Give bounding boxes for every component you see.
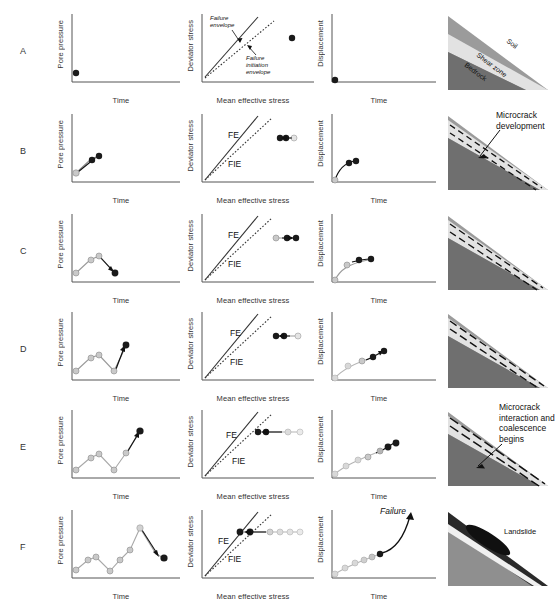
slope-diagram: Landslide: [444, 508, 552, 594]
failure-initiation-envelope-label: Failure initiation envelope: [246, 55, 280, 76]
fie-label: FIE: [228, 554, 241, 565]
fie-label: FIE: [228, 259, 241, 270]
plot-area: [58, 212, 184, 294]
fe-label: FE: [226, 430, 237, 441]
axis-label-x: Time: [58, 196, 184, 205]
axis-label-x: Time: [318, 196, 440, 205]
plot-area: [58, 408, 184, 490]
fie-label: FIE: [230, 357, 243, 368]
axis-label-y: Displacement: [316, 220, 325, 267]
plot-area: [188, 508, 318, 590]
panel-displacement-c: Displacement Time: [318, 212, 440, 304]
plot-area: [188, 112, 318, 194]
landslide-label: Landslide: [504, 527, 536, 536]
axis-label-y: Pore pressure: [56, 416, 65, 464]
panel-pore-pressure-f: Pore pressure Time: [58, 508, 184, 600]
panel-slope-cross-section-d: [444, 310, 552, 402]
axis-label-y: Pore pressure: [56, 220, 65, 268]
panel-stress-path-f: Deviator stress Mean effective stress FE…: [188, 508, 318, 600]
axis-label-x: Mean effective stress: [188, 492, 318, 501]
plot-area: [188, 310, 318, 392]
panel-stress-path-b: Deviator stress Mean effective stress FE…: [188, 112, 318, 204]
plot-area: [318, 12, 440, 94]
panel-pore-pressure-d: Pore pressure Time: [58, 310, 184, 402]
row-label-d: D: [20, 344, 27, 354]
plot-area: [318, 508, 440, 590]
plot-area: [318, 212, 440, 294]
plot-area: [58, 12, 184, 94]
axis-label-x: Time: [318, 96, 440, 105]
axis-label-x: Mean effective stress: [188, 96, 318, 105]
axis-label-y: Pore pressure: [56, 516, 65, 564]
panel-slope-cross-section-e: Microcrack interaction and coalescence b…: [444, 408, 552, 500]
row-label-f: F: [20, 542, 26, 552]
slope-diagram: Soil Shear zone Bedrock: [444, 12, 552, 98]
figure-row-a: A Pore pressure Time Deviator stress Mea…: [0, 8, 554, 104]
fie-label: FIE: [228, 159, 241, 170]
data-point: [289, 35, 295, 41]
axis-label-x: Time: [58, 96, 184, 105]
axis-label-y: Deviator stress: [186, 20, 195, 72]
plot-area: [58, 508, 184, 590]
panel-displacement-d: Displacement Time: [318, 310, 440, 402]
axis-label-y: Pore pressure: [56, 120, 65, 168]
axis-label-y: Displacement: [316, 516, 325, 563]
axis-label-x: Time: [318, 492, 440, 501]
plot-area: [318, 112, 440, 194]
axis-label-x: Time: [58, 592, 184, 601]
axis-label-y: Deviator stress: [186, 416, 195, 468]
axis-label-y: Displacement: [316, 318, 325, 365]
plot-area: [188, 12, 318, 94]
axis-label-x: Mean effective stress: [188, 394, 318, 403]
row-label-e: E: [20, 442, 26, 452]
slope-diagram: [444, 310, 552, 396]
axis-label-y: Deviator stress: [186, 220, 195, 272]
plot-area: [318, 310, 440, 392]
panel-slope-cross-section-c: [444, 212, 552, 304]
axis-label-y: Pore pressure: [56, 20, 65, 68]
panel-slope-cross-section-a: Soil Shear zone Bedrock: [444, 12, 552, 104]
axis-label-x: Time: [58, 492, 184, 501]
panel-pore-pressure-e: Pore pressure Time: [58, 408, 184, 500]
annotation-leader: [444, 112, 552, 198]
axis-label-x: Time: [318, 394, 440, 403]
axis-label-y: Deviator stress: [186, 516, 195, 568]
plot-area: [318, 408, 440, 490]
axis-label-x: Time: [58, 296, 184, 305]
axis-label-y: Deviator stress: [186, 318, 195, 370]
fe-label: FE: [230, 328, 241, 339]
row-label-a: A: [20, 46, 26, 56]
axis-label-x: Mean effective stress: [188, 592, 318, 601]
panel-stress-path-a: Deviator stress Mean effective stress Fa…: [188, 12, 318, 104]
plot-area: [58, 310, 184, 392]
plot-area: [58, 112, 184, 194]
failure-envelope-label: Failure envelope: [210, 15, 244, 29]
panel-pore-pressure-a: Pore pressure Time: [58, 12, 184, 104]
axis-label-x: Time: [318, 296, 440, 305]
annotation-leader: [444, 408, 552, 494]
panel-pore-pressure-c: Pore pressure Time: [58, 212, 184, 304]
figure-row-f: F Pore pressure Time Deviator stre: [0, 504, 554, 600]
panel-stress-path-e: Deviator stress Mean effective stress FE…: [188, 408, 318, 500]
figure-row-d: D Pore pressure Time Deviator stress Mea…: [0, 306, 554, 402]
axis-label-x: Time: [318, 592, 440, 601]
fe-label: FE: [218, 536, 229, 547]
panel-stress-path-d: Deviator stress Mean effective stress FE…: [188, 310, 318, 402]
failure-initiation-envelope-line: [205, 118, 272, 180]
failure-envelope-line: [205, 116, 258, 180]
panel-displacement-a: Displacement Time: [318, 12, 440, 104]
axis-label-x: Time: [58, 394, 184, 403]
slope-diagram: [444, 212, 552, 298]
fe-label: FE: [228, 130, 239, 141]
panel-slope-cross-section-f: Landslide: [444, 508, 552, 600]
axis-label-y: Displacement: [316, 20, 325, 67]
axis-label-y: Displacement: [316, 416, 325, 463]
plot-area: [188, 408, 318, 490]
soil-label: Soil: [505, 37, 519, 50]
panel-slope-cross-section-b: Microcrack development: [444, 112, 552, 204]
data-point: [332, 77, 338, 83]
figure-row-b: B Pore pressure Time Deviator stress Mea…: [0, 108, 554, 204]
axis-label-y: Pore pressure: [56, 318, 65, 366]
panel-stress-path-c: Deviator stress Mean effective stress FE…: [188, 212, 318, 304]
